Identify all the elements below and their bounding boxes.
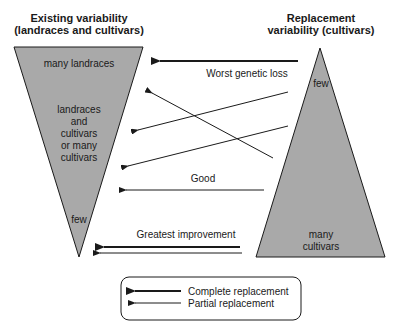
legend-partial-label: Partial replacement	[188, 298, 274, 309]
label-or-many: or many	[61, 140, 97, 151]
genetic-variability-diagram: Existing variability (landraces and cult…	[0, 0, 397, 333]
label-few-right: few	[313, 78, 329, 89]
arrow-diagonal-2	[128, 126, 288, 166]
label-and: and	[71, 116, 88, 127]
arrow-diagonal-up	[152, 93, 273, 158]
label-many-landraces: many landraces	[44, 58, 115, 69]
label-worst-genetic-loss: Worst genetic loss	[206, 68, 288, 79]
label-many: many	[309, 229, 333, 240]
label-cultivars-2: cultivars	[61, 152, 98, 163]
label-few-left: few	[71, 214, 87, 225]
label-many-cultivars: cultivars	[303, 241, 340, 252]
right-title-line2: variability (cultivars)	[268, 24, 375, 36]
left-title-line2: (landraces and cultivars)	[14, 24, 144, 36]
label-greatest-improvement: Greatest improvement	[137, 229, 236, 240]
left-title-line1: Existing variability	[30, 12, 128, 24]
label-landraces: landraces	[57, 104, 100, 115]
legend-complete-label: Complete replacement	[188, 286, 289, 297]
label-cultivars: cultivars	[61, 128, 98, 139]
right-title-line1: Replacement	[287, 12, 356, 24]
label-good: Good	[191, 173, 215, 184]
